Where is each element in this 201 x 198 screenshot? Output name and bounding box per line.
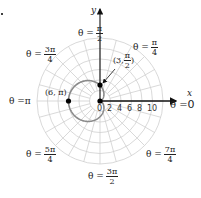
- angle-label-pi-4: θ = π4: [133, 38, 158, 57]
- x-axis-label: x: [187, 88, 192, 98]
- angle-label-3pi-4: θ = 3π4: [26, 45, 56, 64]
- angle-label-pi-2: θ = π2: [78, 24, 103, 43]
- point-6-pi: [66, 98, 71, 103]
- angle-label-5pi-4: θ = 5π4: [26, 145, 56, 164]
- angle-label-3pi-2: θ = 3π2: [88, 167, 118, 186]
- point-3-pi2: [97, 82, 102, 87]
- y-axis-label: y: [91, 5, 96, 15]
- tick-2: 2: [107, 104, 112, 113]
- tick-4: 4: [117, 104, 122, 113]
- angle-label-7pi-4: θ = 7π4: [146, 145, 176, 164]
- angle-label-0: θ = 0: [170, 99, 195, 110]
- angle-label-pi: θ = π: [9, 97, 31, 106]
- tick-8: 8: [137, 104, 142, 113]
- point-origin: [97, 98, 102, 103]
- point-label-3-pi-2: (3, π2 ): [113, 51, 134, 70]
- corner-dot: [1, 13, 3, 15]
- tick-10: 10: [147, 104, 157, 113]
- tick-6: 6: [127, 104, 132, 113]
- tick-0: 0: [97, 104, 102, 113]
- point-label-6-pi: (6, π): [45, 89, 67, 97]
